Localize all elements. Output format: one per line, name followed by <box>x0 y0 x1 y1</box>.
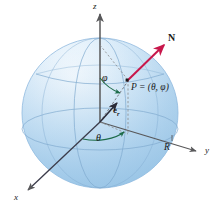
axis-label-z: z <box>93 2 97 11</box>
point-label-p: P = (θ, φ) <box>131 83 169 93</box>
angle-label-phi: φ <box>102 73 108 83</box>
point-p-marker <box>126 79 129 82</box>
spherical-coordinates-figure: z y x φ θ P = (θ, φ) N er R <box>0 0 218 217</box>
unit-vector-label: er <box>113 106 120 117</box>
radius-label: R <box>164 143 170 153</box>
figure-canvas <box>0 0 218 217</box>
unit-vector-subscript: r <box>117 110 120 117</box>
normal-vector-label: N <box>168 33 175 43</box>
axis-label-x: x <box>14 193 18 202</box>
angle-label-theta: θ <box>96 133 101 143</box>
axis-label-y: y <box>205 146 209 155</box>
